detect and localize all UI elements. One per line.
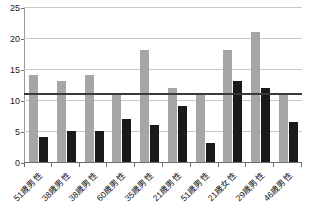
x-axis-label-text: 51歳男性 xyxy=(10,169,44,203)
bar-group xyxy=(219,8,247,162)
bar-group xyxy=(274,8,302,162)
bar-black-series-9 xyxy=(289,122,298,162)
bar-chart: 0510152025 51歳男性38歳男性38歳男性60歳男性35歳男性21歳男… xyxy=(0,0,326,214)
y-tick-label-0: 0 xyxy=(0,158,20,168)
y-tick-label-25: 25 xyxy=(0,3,20,13)
x-axis-category-labels: 51歳男性38歳男性38歳男性60歳男性35歳男性21歳男性51歳男性21歳女性… xyxy=(24,167,302,214)
bar-group xyxy=(136,8,164,162)
x-label-cell-9: 46歳男性 xyxy=(274,167,302,214)
bar-group xyxy=(108,8,136,162)
plot-area xyxy=(24,8,302,163)
y-tick-label-10: 10 xyxy=(0,96,20,106)
y-tick-label-20: 20 xyxy=(0,34,20,44)
reference-line xyxy=(24,93,302,95)
y-tick-mark-5 xyxy=(21,132,24,133)
y-tick-label-15: 15 xyxy=(0,65,20,75)
bar-group xyxy=(164,8,192,162)
bar-group xyxy=(80,8,108,162)
bar-group xyxy=(191,8,219,162)
bar-group xyxy=(247,8,275,162)
bar-gray-series-0 xyxy=(29,75,38,162)
bar-group xyxy=(25,8,53,162)
y-tick-mark-20 xyxy=(21,39,24,40)
y-tick-mark-15 xyxy=(21,70,24,71)
bar-groups xyxy=(25,8,302,162)
y-tick-mark-25 xyxy=(21,8,24,9)
bar-black-series-3 xyxy=(122,119,131,162)
y-tick-label-5: 5 xyxy=(0,127,20,137)
bar-group xyxy=(53,8,81,162)
y-tick-mark-10 xyxy=(21,101,24,102)
